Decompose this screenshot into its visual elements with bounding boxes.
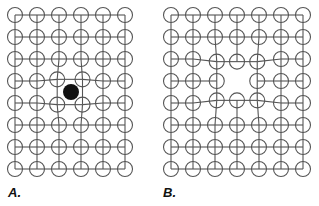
lattice-diagram bbox=[0, 0, 319, 206]
panel-a-label: A. bbox=[8, 185, 21, 200]
impurity-atom bbox=[63, 84, 79, 100]
panel-b-label: B. bbox=[163, 185, 176, 200]
